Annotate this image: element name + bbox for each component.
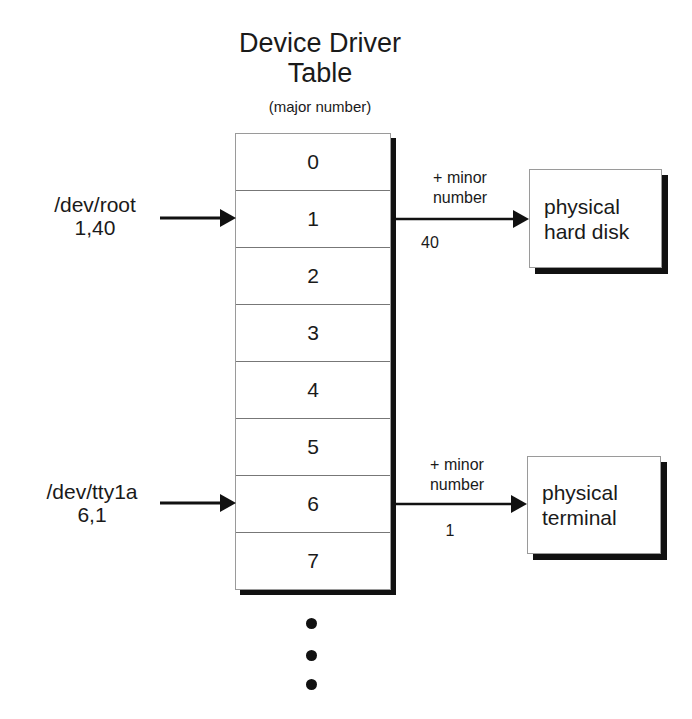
arrowhead-icon	[220, 494, 236, 512]
ellipsis-dot-icon	[306, 650, 317, 661]
ellipsis-dot-icon	[306, 618, 317, 629]
ellipsis-dot-icon	[306, 679, 317, 690]
arrowhead-icon	[513, 210, 529, 228]
arrows-layer	[0, 0, 692, 719]
arrowhead-icon	[220, 209, 236, 227]
arrowhead-icon	[511, 495, 527, 513]
